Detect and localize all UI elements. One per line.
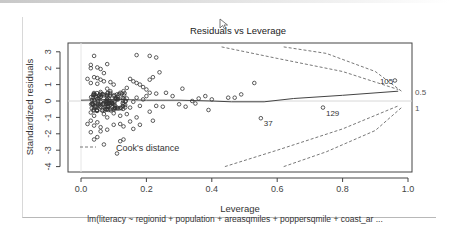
y-tick-label: -4 <box>43 163 53 171</box>
y-tick-label: 1 <box>43 82 53 87</box>
y-tick-label: -1 <box>43 113 53 121</box>
x-tick-label: 0.2 <box>140 184 153 194</box>
x-tick-label: 1.0 <box>402 184 415 194</box>
x-tick-label: 0.8 <box>336 184 349 194</box>
cooks-level-label: 0.5 <box>415 88 427 97</box>
cooks-level-labels: 0.51 <box>415 88 427 113</box>
smoother-line <box>81 91 398 102</box>
point-labels: 10537129 <box>264 77 394 129</box>
y-tick-label: -2 <box>43 130 53 138</box>
cooks-distance-contours <box>222 47 402 167</box>
residuals-vs-leverage-plot: 10537129 3210-1-2-3-4 0.00.20.40.60.81.0… <box>0 0 449 241</box>
y-axis <box>56 52 60 167</box>
x-axis-label: Leverage <box>220 203 260 214</box>
y-tick-label: -3 <box>43 146 53 154</box>
x-tick-label: 0.0 <box>75 184 88 194</box>
y-tick-labels: 3210-1-2-3-4 <box>43 49 53 170</box>
x-tick-labels: 0.00.20.40.60.81.0 <box>75 184 415 194</box>
model-formula: lm(literacy ~ regionid + population + ar… <box>87 214 383 224</box>
mouse-pointer-icon <box>219 18 229 30</box>
data-points <box>86 53 397 155</box>
legend-label: Cook's distance <box>116 143 179 153</box>
chart-title: Residuals vs Leverage <box>190 25 286 36</box>
point-label: 37 <box>264 119 273 128</box>
x-axis <box>81 178 408 182</box>
point-label: 129 <box>326 109 340 118</box>
x-tick-label: 0.4 <box>206 184 219 194</box>
y-tick-label: 3 <box>43 49 53 54</box>
x-tick-label: 0.6 <box>271 184 284 194</box>
cooks-level-label: 1 <box>415 104 420 113</box>
y-axis-label: Standardized residuals <box>24 58 35 155</box>
y-tick-label: 2 <box>43 66 53 71</box>
y-tick-label: 0 <box>43 98 53 103</box>
point-label: 105 <box>380 77 394 86</box>
